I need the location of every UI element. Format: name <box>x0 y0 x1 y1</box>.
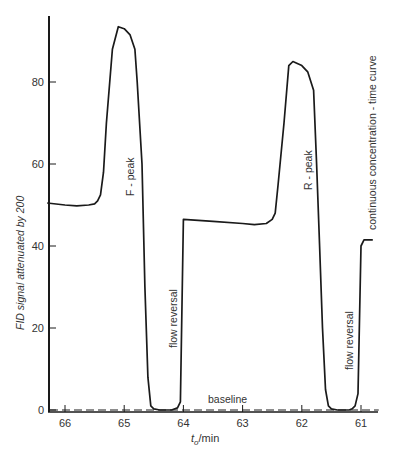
x-axis-label: to/min <box>191 432 219 447</box>
x-axis: 666564636261 <box>48 405 378 429</box>
annotation-r-peak: R - peak <box>302 150 314 190</box>
x-tick-label: 63 <box>236 417 248 429</box>
annotation-baseline: baseline <box>208 393 247 405</box>
annotation-flow-reversal-1: flow reversal <box>167 289 179 348</box>
annotation-continuous-curve: continuous concentration - time curve <box>366 55 378 230</box>
y-axis: 020406080 <box>32 16 56 416</box>
x-tick-label: 61 <box>355 417 367 429</box>
y-tick-label: 80 <box>32 76 44 88</box>
y-tick-label: 20 <box>32 322 44 334</box>
y-axis-label: FID signal attenuated by 200 <box>14 196 26 330</box>
annotation-flow-reversal-2: flow reversal <box>343 311 355 370</box>
x-tick-label: 65 <box>118 417 130 429</box>
y-tick-label: 0 <box>38 404 44 416</box>
y-tick-label: 40 <box>32 240 44 252</box>
x-tick-label: 62 <box>296 417 308 429</box>
x-axis-label-unit: /min <box>199 432 220 444</box>
y-tick-label: 60 <box>32 158 44 170</box>
annotation-f-peak: F - peak <box>124 157 136 196</box>
x-tick-label: 64 <box>177 417 189 429</box>
chromatogram-chart: 020406080 666564636261 FID signal attenu… <box>0 0 395 456</box>
signal-curve <box>47 27 373 410</box>
x-tick-label: 66 <box>59 417 71 429</box>
